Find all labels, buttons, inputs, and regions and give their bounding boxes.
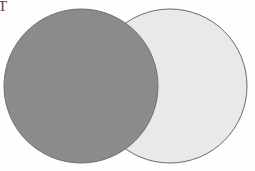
corner-label: T: [0, 0, 7, 14]
overlapping-circles-diagram: [0, 0, 255, 171]
figure-canvas: T: [0, 0, 255, 171]
left-circle: [4, 9, 158, 163]
